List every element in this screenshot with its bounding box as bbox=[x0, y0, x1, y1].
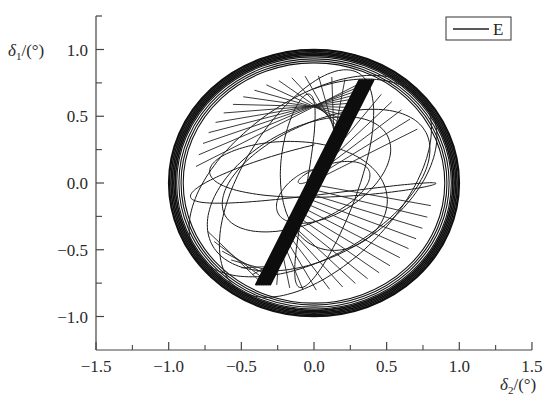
orbit-fan-line bbox=[267, 85, 346, 121]
y-tick-label: −1.0 bbox=[57, 308, 88, 327]
x-tick-label: −1.5 bbox=[81, 357, 112, 376]
orbit-fan-line bbox=[293, 225, 355, 283]
orbit-fan-line bbox=[295, 221, 367, 279]
x-tick-label: 1.5 bbox=[521, 357, 542, 376]
orbit-fan-line bbox=[304, 203, 408, 249]
diagonal-band-line bbox=[260, 80, 363, 284]
x-tick-label: 1.0 bbox=[449, 357, 470, 376]
orbit-fan-line bbox=[222, 251, 267, 275]
orbit-fan-line bbox=[309, 194, 422, 228]
y-tick-label: 0.0 bbox=[67, 174, 88, 193]
series-E-trajectory bbox=[169, 50, 460, 317]
legend-label: E bbox=[493, 20, 503, 39]
diagonal-band-line bbox=[256, 80, 359, 284]
y-tick-label: −0.5 bbox=[57, 241, 88, 260]
orbit-fan-line bbox=[311, 189, 427, 217]
x-tick-label: 0.0 bbox=[303, 357, 324, 376]
legend: E bbox=[446, 17, 511, 40]
y-ticks: −1.0−0.50.00.51.0 bbox=[57, 41, 104, 327]
x-tick-label: 0.5 bbox=[376, 357, 397, 376]
y-axis-title: δ1/(°) bbox=[8, 41, 44, 62]
y-tick-label: 1.0 bbox=[67, 41, 88, 60]
y-tick-label: 0.5 bbox=[67, 107, 88, 126]
x-tick-label: −0.5 bbox=[226, 357, 257, 376]
phase-plot: −1.5−1.0−0.50.00.51.01.5 −1.0−0.50.00.51… bbox=[0, 0, 556, 418]
x-tick-label: −1.0 bbox=[153, 357, 184, 376]
x-axis-title: δ2/(°) bbox=[500, 375, 536, 396]
orbit-fan-line bbox=[298, 216, 379, 272]
x-ticks: −1.5−1.0−0.50.00.51.01.5 bbox=[81, 342, 543, 376]
